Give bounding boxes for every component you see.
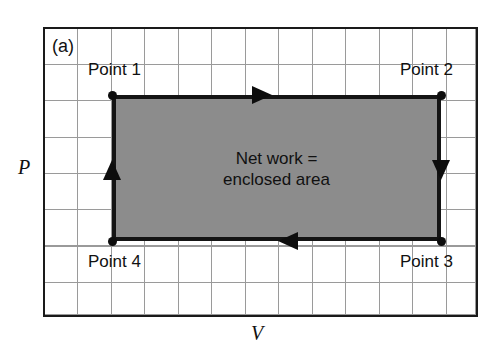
label-point-1: Point 1 [88, 60, 141, 80]
point-marker-1 [108, 91, 117, 100]
label-point-3: Point 3 [400, 252, 453, 272]
point-marker-2 [437, 91, 446, 100]
label-point-2: Point 2 [400, 60, 453, 80]
net-work-annotation-line-1: Net work = [112, 148, 441, 169]
panel-letter: (a) [52, 36, 74, 56]
y-axis-label: P [18, 156, 30, 179]
pv-diagram-figure: (a) Point 1 Point 2 Point 3 Point 4 Net … [0, 0, 501, 358]
net-work-annotation: Net work = enclosed area [112, 148, 441, 190]
label-point-4: Point 4 [88, 252, 141, 272]
arrow-right-icon [252, 86, 272, 104]
net-work-annotation-line-2: enclosed area [112, 169, 441, 190]
point-marker-3 [437, 237, 446, 246]
x-axis-label: V [251, 322, 263, 345]
arrow-left-icon [278, 232, 298, 250]
point-marker-4 [108, 237, 117, 246]
